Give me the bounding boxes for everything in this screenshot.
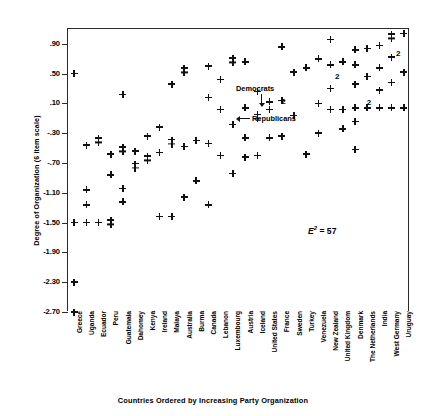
x-axis-category-canada: Canada bbox=[210, 311, 217, 335]
data-point bbox=[242, 154, 249, 161]
data-point bbox=[364, 73, 371, 80]
data-point bbox=[193, 137, 200, 144]
data-point bbox=[327, 61, 334, 68]
data-point bbox=[242, 58, 249, 65]
data-point bbox=[266, 134, 273, 141]
data-point bbox=[315, 55, 322, 62]
data-point bbox=[376, 64, 383, 71]
data-point bbox=[303, 64, 310, 71]
x-axis-category-denmark: Denmark bbox=[357, 311, 364, 339]
annotation-democrats: Democrats bbox=[236, 85, 274, 93]
data-point bbox=[229, 170, 236, 177]
y-axis-tick-mark bbox=[62, 44, 68, 45]
x-axis-category-venezuela: Venezuela bbox=[320, 311, 327, 342]
data-point bbox=[242, 104, 249, 111]
data-point-count-label: 2 bbox=[396, 50, 400, 58]
data-point bbox=[193, 177, 200, 184]
data-point bbox=[132, 148, 139, 155]
x-axis-category-turkey: Turkey bbox=[308, 311, 315, 332]
annotation-democrats-label: Democrats bbox=[236, 84, 274, 93]
data-point bbox=[376, 42, 383, 49]
data-point bbox=[168, 137, 175, 148]
y-axis-tick-label: -1.10 bbox=[26, 189, 60, 197]
data-point bbox=[352, 46, 359, 53]
x-axis-category-iceland: Iceland bbox=[259, 311, 266, 333]
data-point bbox=[315, 100, 322, 107]
data-point bbox=[156, 213, 163, 220]
data-point bbox=[242, 134, 249, 141]
data-point bbox=[119, 91, 126, 98]
x-axis-category-united-states: United States bbox=[271, 311, 278, 353]
y-axis-tick-mark bbox=[62, 252, 68, 253]
x-axis-category-dahomey: Dahomey bbox=[137, 311, 144, 340]
data-point bbox=[352, 61, 359, 68]
y-axis-tick-mark bbox=[62, 133, 68, 134]
data-point bbox=[181, 65, 188, 76]
data-point bbox=[339, 58, 346, 65]
x-axis-category-labels: GreeceUgandaEcuadorPeruGuatemalaDahomeyK… bbox=[67, 311, 409, 393]
data-point bbox=[217, 152, 224, 159]
data-point bbox=[400, 104, 407, 111]
data-point bbox=[83, 219, 90, 226]
annotation-eta-squared: E2 = 57 bbox=[308, 225, 336, 236]
data-point bbox=[71, 219, 78, 226]
data-point-count-label: 2 bbox=[281, 98, 285, 106]
x-axis-category-kenya: Kenya bbox=[149, 311, 156, 331]
data-point bbox=[119, 144, 126, 155]
x-axis-category-burma: Burma bbox=[198, 311, 205, 332]
data-point bbox=[376, 104, 383, 111]
data-point bbox=[352, 81, 359, 88]
scatter-plot-figure: Degree of Organization (6 item scale) 22… bbox=[0, 0, 426, 416]
y-axis-tick-mark bbox=[62, 223, 68, 224]
data-point bbox=[205, 94, 212, 101]
data-point bbox=[181, 194, 188, 201]
data-point bbox=[71, 70, 78, 77]
data-point bbox=[327, 106, 334, 113]
y-axis-tick-mark bbox=[62, 282, 68, 283]
data-point bbox=[388, 79, 395, 86]
x-axis-category-new-zealand: New Zealand bbox=[332, 311, 339, 351]
data-point bbox=[217, 76, 224, 83]
x-axis-category-guatemala: Guatemala bbox=[125, 311, 132, 344]
x-axis-category-malaya: Malaya bbox=[173, 311, 180, 333]
x-axis-category-ecuador: Ecuador bbox=[100, 311, 107, 337]
annotation-republicans-label: Republicans bbox=[252, 114, 296, 123]
data-point bbox=[95, 135, 102, 146]
x-axis-category-united-kingdom: United Kingdom bbox=[344, 311, 351, 361]
x-axis-category-uruguay: Uruguay bbox=[405, 311, 412, 337]
data-point bbox=[144, 153, 151, 164]
data-point-count-label: 2 bbox=[335, 73, 339, 81]
x-axis-category-peru: Peru bbox=[112, 311, 119, 325]
y-axis-tick-label: .50 bbox=[26, 70, 60, 78]
x-axis-category-lebanon: Lebanon bbox=[222, 311, 229, 338]
data-point-count-label: 2 bbox=[367, 99, 371, 107]
data-point bbox=[107, 171, 114, 178]
x-axis-category-france: France bbox=[283, 311, 290, 332]
data-point bbox=[83, 186, 90, 193]
data-point bbox=[144, 133, 151, 140]
data-point bbox=[229, 55, 236, 66]
data-point bbox=[266, 98, 273, 105]
x-axis-category-india: India bbox=[381, 311, 388, 326]
data-point bbox=[290, 69, 297, 76]
data-point bbox=[217, 106, 224, 113]
data-point bbox=[168, 81, 175, 88]
data-point bbox=[132, 161, 139, 172]
data-point bbox=[205, 140, 212, 147]
annotation-republicans-arrow-icon bbox=[240, 118, 250, 119]
x-axis-title: Countries Ordered by Increasing Party Or… bbox=[0, 396, 426, 405]
x-axis-category-sweden: Sweden bbox=[296, 311, 303, 336]
data-point bbox=[339, 106, 346, 113]
data-point bbox=[278, 133, 285, 140]
data-point bbox=[388, 31, 395, 42]
y-axis-tick-label: -2.30 bbox=[26, 278, 60, 286]
data-point bbox=[327, 36, 334, 43]
y-axis-tick-mark bbox=[62, 163, 68, 164]
data-point bbox=[327, 85, 334, 92]
annotation-republicans: Republicans bbox=[252, 115, 296, 123]
y-axis-tick-label: -1.90 bbox=[26, 248, 60, 256]
data-point bbox=[71, 279, 78, 286]
data-point bbox=[315, 130, 322, 137]
data-point bbox=[266, 106, 273, 113]
data-point bbox=[303, 151, 310, 158]
